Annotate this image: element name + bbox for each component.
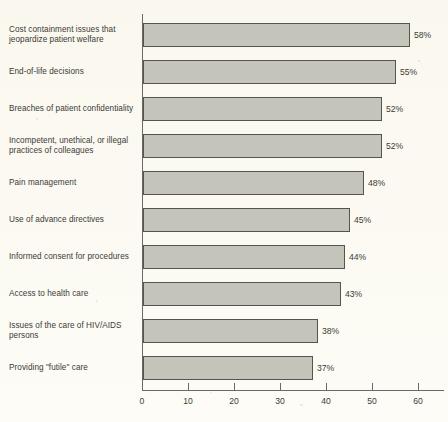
bar <box>143 134 382 158</box>
bar-row: 48% <box>143 171 445 195</box>
bar-value-label: 52% <box>382 141 403 151</box>
category-axis-labels: Cost containment issues that jeopardize … <box>0 0 140 390</box>
x-axis-tick <box>372 383 373 390</box>
x-axis-tick-label: 50 <box>367 396 377 406</box>
x-axis-tick <box>188 383 189 390</box>
x-axis-tick <box>280 383 281 390</box>
category-label: Breaches of patient confidentiality <box>9 104 137 115</box>
x-axis-line <box>142 390 444 391</box>
x-axis-tick-label: 20 <box>229 396 239 406</box>
category-label: Pain management <box>9 178 137 189</box>
bar-value-label: 52% <box>382 104 403 114</box>
category-label: Informed consent for procedures <box>9 252 137 263</box>
bar <box>143 282 341 306</box>
plot-area: 58%55%52%52%48%45%44%43%38%37%0102030405… <box>142 14 444 390</box>
bar-row: 58% <box>143 23 445 47</box>
bar-row: 37% <box>143 356 445 380</box>
bar-value-label: 38% <box>318 326 339 336</box>
category-label: Issues of the care of HIV/AIDS persons <box>9 321 137 342</box>
category-label: Access to health care <box>9 289 137 300</box>
bar <box>143 356 313 380</box>
bar-row: 52% <box>143 134 445 158</box>
bar-value-label: 55% <box>396 67 417 77</box>
bar <box>143 23 410 47</box>
scan-speck <box>96 300 98 302</box>
x-axis-tick <box>418 383 419 390</box>
category-label: Cost containment issues that jeopardize … <box>9 25 137 46</box>
category-label: End-of-life decisions <box>9 67 137 78</box>
bar-row: 43% <box>143 282 445 306</box>
bar-value-label: 58% <box>410 30 431 40</box>
bar-row: 38% <box>143 319 445 343</box>
x-axis-tick-label: 30 <box>275 396 285 406</box>
scan-speck <box>418 60 420 62</box>
bar <box>143 97 382 121</box>
bar-value-label: 37% <box>313 363 334 373</box>
bar-row: 44% <box>143 245 445 269</box>
horizontal-bar-chart: Cost containment issues that jeopardize … <box>0 0 448 422</box>
scan-speck <box>300 404 303 406</box>
x-axis-tick-label: 40 <box>321 396 331 406</box>
bar <box>143 60 396 84</box>
scan-speck <box>36 118 38 120</box>
bar-row: 45% <box>143 208 445 232</box>
category-label: Providing "futile" care <box>9 363 137 374</box>
x-axis-tick <box>326 383 327 390</box>
bar <box>143 171 364 195</box>
bar <box>143 319 318 343</box>
category-label: Incompetent, unethical, or illegal pract… <box>9 136 137 157</box>
bar-value-label: 43% <box>341 289 362 299</box>
bar <box>143 208 350 232</box>
scan-speck <box>210 392 212 393</box>
x-axis-tick-label: 60 <box>413 396 423 406</box>
x-axis-tick-label: 10 <box>183 396 193 406</box>
bar-row: 52% <box>143 97 445 121</box>
bar <box>143 245 345 269</box>
bar-value-label: 48% <box>364 178 385 188</box>
bar-value-label: 44% <box>345 252 366 262</box>
x-axis-tick-label: 0 <box>140 396 145 406</box>
bar-row: 55% <box>143 60 445 84</box>
x-axis-tick <box>234 383 235 390</box>
bar-value-label: 45% <box>350 215 371 225</box>
category-label: Use of advance directives <box>9 215 137 226</box>
